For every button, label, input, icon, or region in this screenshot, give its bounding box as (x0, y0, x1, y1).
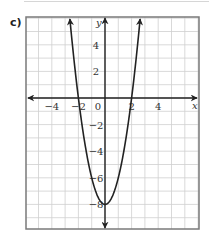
x-tick-label: −4 (44, 101, 59, 112)
x-axis-label: x (192, 100, 198, 111)
y-tick-label: 4 (93, 40, 99, 51)
parabola-graph: −4−202442−2−4−6−8xy (0, 0, 209, 239)
y-axis-label: y (95, 17, 102, 28)
y-tick-label: 2 (93, 66, 99, 77)
tick-labels: −4−202442−2−4−6−8xy (44, 17, 198, 210)
x-tick-label: 4 (155, 101, 161, 112)
x-tick-label: 0 (95, 101, 101, 112)
y-tick-label: −2 (89, 120, 104, 131)
y-tick-label: −4 (89, 146, 104, 157)
